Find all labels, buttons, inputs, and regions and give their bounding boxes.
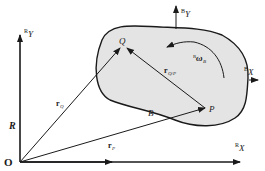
- vector-r-q: [20, 48, 120, 162]
- body-x-label: X: [247, 67, 254, 77]
- body-y-label: Y: [185, 9, 191, 19]
- frame-label: R: [8, 120, 16, 131]
- body-label: B: [148, 108, 154, 118]
- point-q-label: Q: [119, 36, 126, 46]
- r-qp-sub: Q/P: [168, 71, 176, 76]
- omega-sub: B: [203, 59, 206, 64]
- omega-label: ω: [196, 53, 203, 63]
- point-p-label: P: [208, 104, 215, 114]
- kinematics-diagram: O R R Y R X B Q P B Y B X r Q r P r Q/P …: [0, 0, 265, 171]
- r-p-sub: P: [111, 146, 115, 151]
- r-q-sub: Q: [60, 104, 64, 109]
- origin-label: O: [4, 156, 13, 168]
- ground-y-label: Y: [28, 29, 34, 39]
- vector-r-p: [20, 108, 205, 162]
- ground-x-label: X: [238, 143, 245, 153]
